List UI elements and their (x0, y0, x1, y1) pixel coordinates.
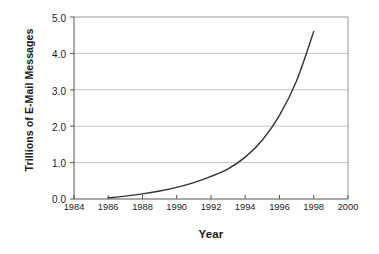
x-tick-label-2000: 2000 (328, 202, 368, 212)
x-axis-title: Year (74, 228, 348, 240)
y-axis-ticks (70, 17, 74, 199)
plot-background (74, 17, 348, 199)
plot-area (0, 0, 379, 254)
email-messages-line-chart: Trillions of E-Mail Messages 5.0 4.0 3.0… (0, 0, 379, 254)
